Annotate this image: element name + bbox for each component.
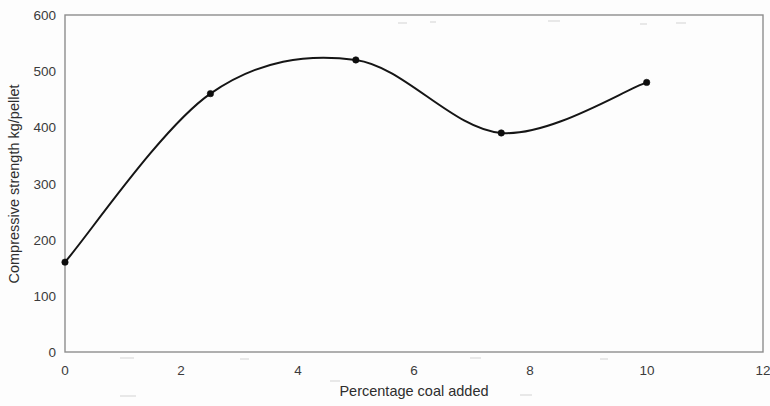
x-tick-label: 2: [177, 363, 185, 378]
y-tick-label: 200: [33, 233, 56, 248]
data-point-marker: [353, 57, 359, 63]
x-tick-label: 8: [526, 363, 534, 378]
data-point-marker: [643, 79, 649, 85]
y-tick-label: 0: [48, 345, 56, 360]
line-chart: 600 500 400 300 200 100 0 0 2 4 6 8 10 1…: [0, 0, 770, 406]
x-tick-label: 6: [410, 363, 418, 378]
chart-background: [0, 0, 770, 406]
x-tick-label: 0: [61, 363, 69, 378]
x-axis-title: Percentage coal added: [339, 383, 488, 399]
x-tick-label: 12: [755, 363, 770, 378]
x-tick-label: 10: [639, 363, 654, 378]
y-tick-label: 300: [33, 177, 56, 192]
y-tick-label: 500: [33, 64, 56, 79]
data-point-marker: [62, 259, 68, 265]
y-tick-label: 600: [33, 8, 56, 23]
chart-page: 600 500 400 300 200 100 0 0 2 4 6 8 10 1…: [0, 0, 770, 406]
x-tick-label: 4: [294, 363, 302, 378]
y-tick-label: 100: [33, 289, 56, 304]
data-point-marker: [498, 130, 504, 136]
data-point-marker: [207, 90, 213, 96]
y-tick-label: 400: [33, 120, 56, 135]
y-axis-title: Compressive strength kg/pellet: [6, 84, 22, 283]
